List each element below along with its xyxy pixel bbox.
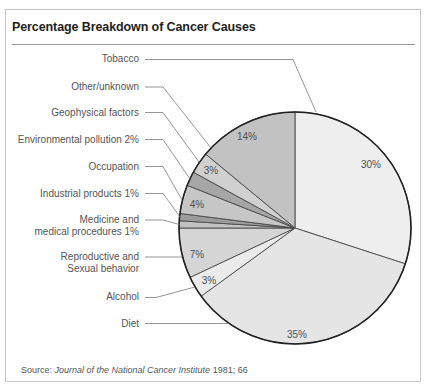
value-label-reproductive: 7%: [190, 249, 204, 261]
source-journal: Journal of the National Cancer Institute: [55, 365, 211, 375]
source-prefix: Source:: [21, 365, 55, 375]
label-reproductive-line2: Sexual behavior: [61, 263, 139, 275]
leader-line-occupation: [145, 167, 182, 201]
leader-line-environmental-pollution: [145, 140, 190, 180]
label-other-unknown: Other/unknown: [71, 81, 139, 93]
source-note: Source: Journal of the National Cancer I…: [21, 365, 248, 375]
label-environmental-pollution: Environmental pollution 2%: [18, 134, 139, 146]
value-label-alcohol: 3%: [202, 275, 216, 287]
label-diet: Diet: [121, 318, 139, 330]
value-label-diet: 35%: [287, 329, 307, 341]
leader-line-geophysical: [145, 113, 199, 163]
leader-line-alcohol: [145, 287, 195, 298]
source-suffix: 1981; 66: [210, 365, 248, 375]
pie-slices: [179, 112, 411, 344]
label-industrial-products: Industrial products 1%: [40, 188, 139, 200]
leader-line-tobacco: [145, 60, 316, 113]
label-alcohol: Alcohol: [106, 291, 139, 303]
label-geophysical-factors: Geophysical factors: [51, 107, 139, 119]
label-medicine: Medicine and medical procedures 1%: [35, 214, 140, 238]
label-medicine-line2: medical procedures 1%: [35, 226, 140, 238]
value-label-other-unknown: 14%: [237, 131, 257, 143]
label-tobacco: Tobacco: [102, 53, 139, 65]
value-label-occupation: 4%: [190, 199, 204, 211]
label-reproductive: Reproductive and Sexual behavior: [61, 251, 139, 275]
leader-line-medicine: [145, 220, 180, 225]
leader-line-other-unknown: [145, 87, 211, 148]
leader-line-industrial-products: [145, 194, 180, 218]
label-medicine-line1: Medicine and: [35, 214, 140, 226]
value-label-tobacco: 30%: [361, 159, 381, 171]
label-occupation: Occupation: [88, 161, 139, 173]
label-reproductive-line1: Reproductive and: [61, 251, 139, 263]
value-label-geophysical: 3%: [204, 165, 218, 177]
